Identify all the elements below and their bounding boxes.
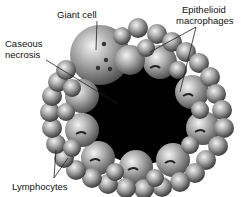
caseous-necrosis-label-line1: Caseous	[5, 38, 43, 49]
epithelioid-macrophages-label-line2: macrophages	[176, 15, 234, 26]
lymphocytes-label: Lymphocytes	[12, 181, 68, 192]
epithelioid-macrophages-label-line1: Epithelioid	[182, 4, 226, 15]
granuloma-diagram	[0, 0, 241, 197]
giant-cell-label: Giant cell	[57, 9, 97, 20]
caseous-necrosis-label-line2: necrosis	[5, 49, 40, 60]
